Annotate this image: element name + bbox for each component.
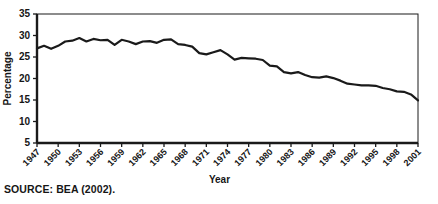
x-tick-label: 1986 — [296, 147, 317, 168]
x-tick-label: 1959 — [105, 147, 126, 168]
line-chart: 5101520253035194719501953195619591962196… — [0, 0, 438, 204]
x-tick-label: 1980 — [254, 147, 275, 168]
x-tick-label: 1983 — [275, 147, 296, 168]
x-tick-label: 1971 — [190, 147, 211, 168]
y-tick-label: 25 — [19, 51, 31, 62]
x-tick-label: 2001 — [402, 147, 423, 168]
y-tick-label: 10 — [19, 116, 31, 127]
y-axis-title: Percentage — [2, 51, 13, 105]
x-tick-label: 1995 — [359, 147, 380, 168]
x-tick-label: 1998 — [381, 147, 402, 168]
plot-frame — [37, 14, 418, 143]
x-axis-title: Year — [209, 174, 230, 185]
y-tick-label: 15 — [19, 94, 31, 105]
y-tick-label: 20 — [19, 73, 31, 84]
source-note: SOURCE: BEA (2002). — [4, 183, 115, 195]
x-tick-label: 1965 — [148, 147, 169, 168]
y-tick-label: 30 — [19, 30, 31, 41]
x-tick-label: 1956 — [84, 147, 105, 168]
x-tick-label: 1953 — [63, 147, 84, 168]
x-tick-label: 1992 — [338, 147, 359, 168]
x-tick-label: 1950 — [42, 147, 63, 168]
x-tick-label: 1989 — [317, 147, 338, 168]
x-tick-label: 1977 — [232, 147, 253, 168]
x-tick-label: 1947 — [21, 147, 42, 168]
y-tick-label: 5 — [24, 137, 30, 148]
figure-container: 5101520253035194719501953195619591962196… — [0, 0, 438, 204]
y-tick-label: 35 — [19, 8, 31, 19]
data-line-series-0 — [37, 38, 418, 100]
x-tick-label: 1974 — [211, 147, 232, 168]
x-tick-label: 1962 — [127, 147, 148, 168]
x-tick-label: 1968 — [169, 147, 190, 168]
